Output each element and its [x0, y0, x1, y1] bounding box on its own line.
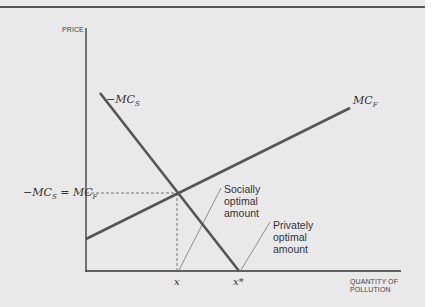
equilibrium-price-label: −MCS = MCF	[23, 186, 97, 201]
x-tick-social: x	[174, 276, 180, 287]
mcf-curve-label: MCF	[353, 94, 378, 109]
social-optimum-annotation: Socially optimal amount	[224, 183, 260, 219]
chart-plot	[0, 0, 434, 307]
social-line-2: optimal	[224, 195, 260, 207]
social-line-3: amount	[224, 207, 260, 219]
private-leader-line	[241, 222, 270, 270]
private-optimum-annotation: Privately optimal amount	[273, 219, 313, 255]
mcs-curve-label: −MCS	[106, 93, 140, 108]
x-axis-label-line1: QUANTITY OF	[350, 278, 398, 286]
mcs-curve	[100, 93, 239, 271]
social-line-1: Socially	[224, 183, 260, 195]
private-line-2: optimal	[273, 231, 313, 243]
x-tick-private: x*	[233, 276, 244, 287]
x-axis-label: QUANTITY OF POLLUTION	[350, 278, 398, 294]
private-line-1: Privately	[273, 219, 313, 231]
x-axis-label-line2: POLLUTION	[350, 286, 398, 294]
y-axis-label: PRICE	[62, 26, 84, 34]
private-line-3: amount	[273, 243, 313, 255]
